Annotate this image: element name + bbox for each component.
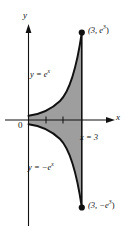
lower-curve-label-exponent: x <box>51 161 54 167</box>
lower-point-label: (3, −e3) <box>88 201 115 210</box>
upper-curve-label-exponent: x <box>48 68 51 74</box>
upper-curve-label: y = ex <box>30 70 50 79</box>
lower-curve-label-text: y = −e <box>28 162 51 172</box>
vertical-line-label: x = 3 <box>80 133 98 142</box>
y-axis-arrowhead <box>26 24 32 33</box>
x-axis-label: x <box>116 113 120 122</box>
upper-point-label: (3, e3) <box>88 26 109 35</box>
point-marker-upper <box>79 29 85 35</box>
x-axis-arrowhead <box>106 117 115 123</box>
lower-curve-label: y = −ex <box>28 163 54 172</box>
y-axis-label: y <box>23 11 27 20</box>
point-marker-lower <box>79 204 85 210</box>
math-figure: y x 0 y = ex y = −ex x = 3 (3, e3) (3, −… <box>0 0 127 234</box>
origin-label: 0 <box>18 121 23 130</box>
lower-point-label-text: (3, −e <box>88 200 109 210</box>
lower-point-label-close: ) <box>112 200 115 210</box>
upper-curve-label-text: y = e <box>30 69 48 79</box>
upper-point-label-text: (3, e <box>88 25 103 35</box>
upper-point-label-close: ) <box>106 25 109 35</box>
